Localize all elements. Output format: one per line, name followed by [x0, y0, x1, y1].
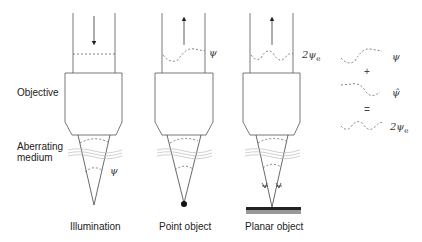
label-point-object: Point object — [159, 221, 211, 232]
psi-wavefront — [163, 49, 205, 61]
label-planar-object: Planar object — [245, 221, 303, 232]
objective-body — [65, 73, 122, 135]
legend-equals: = — [364, 104, 370, 115]
aberrating-medium — [157, 149, 212, 159]
panel-illumination — [65, 13, 122, 205]
point-object-dot — [181, 201, 187, 207]
label-illumination: Illumination — [70, 221, 121, 232]
legend-2psi-e-label: 2ψe — [390, 121, 408, 135]
microscope-aberration-diagram: Objective Aberrating medium Illumination… — [0, 0, 422, 242]
legend-psi-label: ψ — [392, 51, 400, 62]
legend-psi-wave — [341, 49, 382, 63]
symbol-psi-illumination: ψ — [110, 165, 118, 176]
panel-planar-object — [243, 13, 301, 214]
symbol-2psi-e-planar: 2ψe — [302, 49, 320, 63]
two-psi-e-wavefront — [251, 51, 293, 60]
objective-body — [243, 73, 300, 135]
legend-psi-hat-label: ψ̂ — [392, 87, 400, 98]
planar-object-plate-top — [246, 207, 301, 210]
reflected-ray-arrows — [262, 183, 282, 188]
planar-object-plate-bottom — [246, 210, 301, 214]
symbol-psi-point: ψ — [209, 47, 217, 58]
panel-point-object — [155, 13, 213, 207]
label-objective: Objective — [17, 87, 59, 98]
wavefront-legend — [341, 49, 383, 129]
aberrating-medium — [245, 149, 300, 159]
legend-2psi-e-wave — [341, 122, 383, 130]
objective-body — [155, 73, 213, 135]
legend-plus: + — [364, 66, 370, 77]
label-aberrating-medium-2: medium — [17, 152, 53, 163]
legend-psi-hat-wave — [341, 84, 380, 96]
diagram-canvas — [0, 0, 422, 242]
label-aberrating-medium-1: Aberrating — [17, 141, 63, 152]
aberrating-medium — [68, 149, 122, 159]
